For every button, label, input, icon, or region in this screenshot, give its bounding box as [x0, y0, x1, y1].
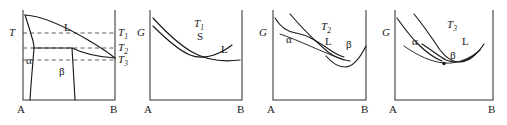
solidus-alpha-curve: [25, 15, 34, 48]
label-alpha-region: α: [26, 55, 32, 66]
curve-liquid-l: [290, 14, 350, 61]
label-isotherm-t1: T1: [118, 27, 128, 41]
axis-label-a-left: A: [144, 104, 152, 115]
axis-label-a-left: A: [17, 104, 25, 115]
axis-label-gibbs: G: [382, 27, 390, 38]
axis-label-a-left: A: [267, 104, 275, 115]
label-temperature-t3: T3: [447, 19, 457, 33]
curve-alpha: [397, 18, 442, 61]
axis-label-gibbs: G: [259, 27, 267, 38]
axis-frame: [273, 10, 366, 100]
figure-container: T A B L α β T1 T2 T3 G A B T1 S L: [0, 0, 507, 125]
axis-label-b-right: B: [488, 104, 495, 115]
eutectic-point-marker: [442, 62, 445, 65]
label-curve-beta: β: [450, 50, 456, 61]
panel-gibbs-t3: G A B α T3 L β: [376, 0, 507, 125]
beta-solvus-curve: [72, 48, 75, 100]
label-curve-s: S: [197, 31, 203, 42]
axis-label-temperature: T: [9, 27, 15, 38]
label-curve-l: L: [221, 44, 228, 55]
label-curve-alpha: α: [412, 36, 418, 47]
label-temperature-t2: T2: [321, 21, 331, 35]
axis-label-gibbs: G: [137, 27, 145, 38]
axis-label-b-right: B: [361, 104, 368, 115]
label-beta-region: β: [59, 66, 65, 77]
axis-label-b-right: B: [237, 104, 244, 115]
label-isotherm-t3: T3: [118, 54, 128, 68]
label-curve-l: L: [462, 36, 469, 47]
axis-label-b-right: B: [110, 104, 117, 115]
panel-gibbs-t2: G A B α T2 L β: [250, 0, 376, 125]
axis-label-a-left: A: [389, 104, 397, 115]
label-curve-alpha: α: [286, 34, 292, 45]
label-liquid-region: L: [64, 22, 71, 33]
label-curve-l: L: [325, 36, 332, 47]
panel-gibbs-t1: G A B T1 S L: [128, 0, 250, 125]
panel-phase-diagram: T A B L α β T1 T2 T3: [0, 0, 128, 125]
label-curve-beta: β: [346, 39, 352, 50]
